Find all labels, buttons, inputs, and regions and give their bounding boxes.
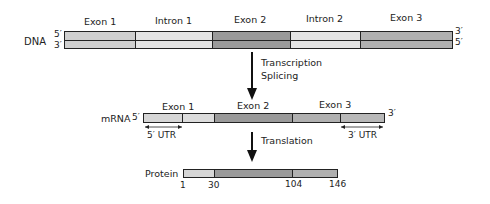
transcription-label: Transcription [261, 57, 322, 68]
mrna-label: mRNA [101, 113, 130, 124]
position-1: 1 [180, 180, 186, 190]
position-104: 104 [285, 179, 302, 189]
mrna-exon2-label: Exon 2 [237, 100, 269, 111]
dna-bottom-right-end: 5′ [455, 37, 463, 47]
mrna-5prime-end: 5′ [132, 112, 140, 122]
dna-label: DNA [24, 36, 46, 47]
utr3-label: 3′ UTR [348, 130, 377, 140]
mrna-3prime-end: 3′ [388, 108, 396, 118]
mrna-5utr-region [144, 114, 183, 122]
dna-bottom-left-end: 3′ [54, 40, 62, 50]
dna-top-right-end: 3′ [455, 26, 463, 36]
utr5-label: 5′ UTR [147, 130, 176, 140]
protein-segment-3 [293, 170, 337, 177]
translation-label: Translation [261, 135, 313, 146]
dna-double-strand [64, 31, 453, 49]
dna-intron1-label: Intron 1 [155, 15, 192, 26]
mrna-exon1-label: Exon 1 [162, 101, 194, 112]
protein-chain [183, 169, 338, 178]
dna-exon2-label: Exon 2 [234, 14, 266, 25]
strand-divider [65, 40, 452, 41]
mrna-strand [143, 113, 385, 123]
mrna-exon1-coding [183, 114, 215, 122]
mrna-exon3-label: Exon 3 [319, 99, 351, 110]
utr5-bracket [145, 125, 182, 129]
transcription-arrow [247, 52, 257, 100]
dna-exon1-label: Exon 1 [84, 16, 116, 27]
protein-label: Protein [145, 168, 178, 179]
dna-intron2-label: Intron 2 [306, 13, 343, 24]
dna-top-left-end: 5′ [54, 29, 62, 39]
mrna-exon3-coding [293, 114, 341, 122]
position-146: 146 [329, 179, 346, 189]
dna-exon3-label: Exon 3 [390, 12, 422, 23]
protein-segment-2 [215, 170, 293, 177]
position-30: 30 [208, 180, 219, 190]
splicing-label: Splicing [261, 70, 298, 81]
mrna-exon2 [215, 114, 293, 122]
protein-segment-1 [184, 170, 215, 177]
utr3-bracket [341, 125, 383, 129]
mrna-3utr-region [341, 114, 384, 122]
translation-arrow [247, 132, 257, 162]
